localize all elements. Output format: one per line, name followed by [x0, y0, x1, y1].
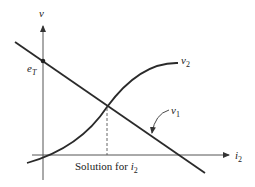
- device-curve-v2: [27, 63, 178, 163]
- v1-pointer-arrow: [152, 110, 169, 133]
- operating-point-diagram: v i2 eT v2 v1 Solution for i2: [0, 0, 255, 187]
- v2-label: v2: [181, 54, 190, 69]
- solution-label: Solution for i2: [75, 160, 138, 175]
- i2-axis-label: i2: [235, 149, 242, 164]
- et-label: eT: [27, 62, 37, 77]
- et-intercept-point: [41, 59, 46, 64]
- v-axis-label: v: [39, 7, 44, 19]
- v1-label: v1: [171, 104, 180, 119]
